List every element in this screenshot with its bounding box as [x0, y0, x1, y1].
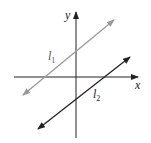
y-axis-label: y [64, 8, 71, 22]
x-axis-label: x [134, 78, 141, 92]
l1-label: l1 [48, 49, 55, 65]
l2-label: l2 [93, 87, 100, 103]
line-l1 [23, 20, 114, 95]
coordinate-diagram: y x l1 l2 [0, 0, 151, 143]
line-l2 [38, 57, 130, 129]
